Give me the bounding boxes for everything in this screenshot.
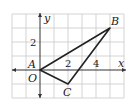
- x-tick-4: 4: [93, 58, 99, 69]
- point-b-label: B: [110, 15, 119, 28]
- x-axis-label: x: [118, 57, 125, 70]
- point-a-label: A: [27, 58, 36, 71]
- y-tick-2: 2: [30, 37, 36, 48]
- x-axis-left-arrow-icon: [12, 68, 16, 72]
- y-axis-label: y: [43, 12, 51, 25]
- y-axis: [38, 13, 42, 98]
- y-axis-down-arrow-icon: [38, 94, 42, 98]
- origin-label: O: [28, 72, 37, 85]
- point-c-label: C: [63, 86, 72, 99]
- x-tick-2: 2: [65, 58, 71, 69]
- coordinate-plane: y x 2 2 4 A O B C: [0, 0, 130, 105]
